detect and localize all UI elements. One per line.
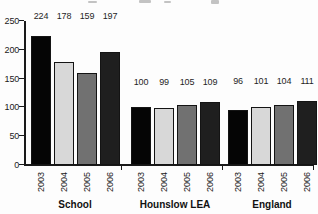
- y-axis-tick: [19, 106, 24, 107]
- title-fragment: [211, 0, 219, 4]
- y-axis-label: 50: [0, 131, 19, 141]
- y-axis-label: 150: [0, 74, 19, 84]
- bar-2004-hounslow-lea: [154, 108, 174, 165]
- bar-2005-school: [77, 73, 97, 165]
- year-label-2004-school: 2004: [58, 168, 70, 196]
- bar-2004-school: [54, 62, 74, 165]
- year-label-2003-hounslow-lea: 2003: [135, 168, 147, 196]
- year-label-2004-hounslow-lea: 2004: [158, 168, 170, 196]
- y-axis-tick: [19, 78, 24, 79]
- year-label-2006-school: 2006: [104, 168, 116, 196]
- bar-2005-england: [274, 105, 294, 165]
- value-label-2006-school: 197: [96, 11, 124, 22]
- y-axis-line: [24, 21, 26, 165]
- year-label-2003-england: 2003: [232, 168, 244, 196]
- cropped-title-remnant: [0, 0, 318, 6]
- value-label-2006-hounslow-lea: 109: [196, 77, 224, 88]
- title-fragment: [164, 1, 171, 3]
- bar-2004-england: [251, 107, 271, 165]
- y-axis-label: 100: [0, 102, 19, 112]
- bar-2006-hounslow-lea: [200, 102, 220, 165]
- x-axis-tick: [222, 165, 223, 170]
- y-axis-label: 250: [0, 16, 19, 26]
- year-label-2006-hounslow-lea: 2006: [204, 168, 216, 196]
- x-axis-tick: [313, 165, 314, 170]
- year-label-2004-england: 2004: [255, 168, 267, 196]
- y-axis-label: 0: [0, 160, 19, 170]
- y-axis-tick: [19, 164, 24, 165]
- group-label-hounslow-lea: Hounslow LEA: [129, 199, 221, 210]
- bar-2003-england: [228, 110, 248, 165]
- title-fragment: [139, 0, 151, 3]
- grouped-bar-chart: 0501001502002502242003178200415920051972…: [0, 0, 318, 214]
- year-label-2005-school: 2005: [81, 168, 93, 196]
- bar-2003-school: [31, 36, 51, 165]
- title-fragment: [88, 1, 97, 3]
- group-label-school: School: [29, 199, 121, 210]
- bar-2003-hounslow-lea: [131, 107, 151, 165]
- y-axis-tick: [19, 135, 24, 136]
- year-label-2005-hounslow-lea: 2005: [181, 168, 193, 196]
- year-label-2006-england: 2006: [301, 168, 313, 196]
- year-label-2005-england: 2005: [278, 168, 290, 196]
- x-axis-tick: [121, 165, 122, 170]
- y-axis-tick: [19, 20, 24, 21]
- value-label-2006-england: 111: [293, 76, 318, 87]
- y-axis-tick: [19, 49, 24, 50]
- bar-2006-school: [100, 52, 120, 165]
- bar-2006-england: [297, 101, 317, 165]
- y-axis-label: 200: [0, 45, 19, 55]
- bar-2005-hounslow-lea: [177, 105, 197, 165]
- year-label-2003-school: 2003: [35, 168, 47, 196]
- group-label-england: England: [226, 199, 318, 210]
